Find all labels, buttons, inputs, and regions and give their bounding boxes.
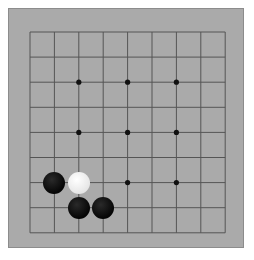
white-stone: [68, 172, 90, 194]
black-stone: [92, 197, 114, 219]
star-point: [76, 80, 81, 85]
go-board[interactable]: [8, 8, 244, 248]
star-point: [125, 180, 130, 185]
black-stone: [68, 197, 90, 219]
star-point: [174, 180, 179, 185]
star-point: [76, 130, 81, 135]
star-point: [174, 80, 179, 85]
board-grid: [9, 9, 245, 249]
star-point: [174, 130, 179, 135]
star-point: [125, 130, 130, 135]
black-stone: [43, 172, 65, 194]
star-point: [125, 80, 130, 85]
